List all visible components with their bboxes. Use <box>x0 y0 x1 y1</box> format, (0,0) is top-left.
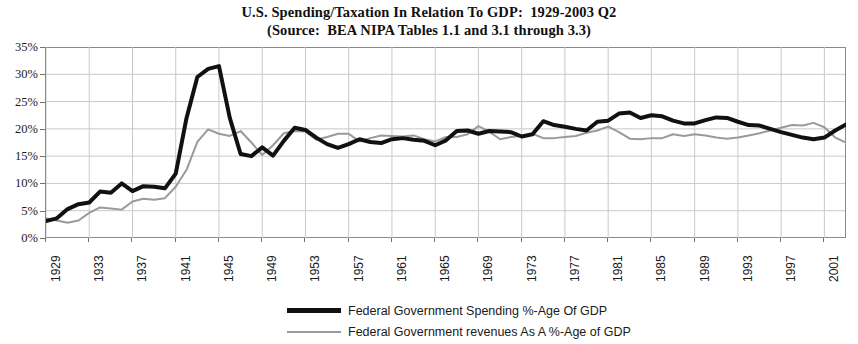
y-axis-tick-mark <box>40 238 45 239</box>
x-axis-tick-label: 1973 <box>526 255 538 282</box>
x-axis-tick-mark <box>434 238 435 242</box>
x-axis-tick-label: 1949 <box>266 255 278 282</box>
x-axis-tick-mark <box>780 238 781 242</box>
plot-area <box>45 47 845 238</box>
x-axis-tick-label: 1945 <box>223 255 235 282</box>
legend-item-revenues: Federal Government revenues As A %-Age o… <box>287 321 707 342</box>
y-axis-tick-label: 25% <box>0 96 38 108</box>
y-axis-tick-label: 15% <box>0 150 38 162</box>
x-axis-tick-label: 1989 <box>699 255 711 282</box>
x-axis-tick-mark <box>607 238 608 242</box>
x-axis-tick-mark <box>564 238 565 242</box>
x-axis-tick-label: 1929 <box>50 255 62 282</box>
y-axis-tick-label: 5% <box>0 205 38 217</box>
y-axis-tick-label: 20% <box>0 123 38 135</box>
x-axis-tick-label: 2001 <box>828 255 840 282</box>
chart-plot-svg <box>46 47 846 238</box>
x-axis-tick-label: 1957 <box>353 255 365 282</box>
x-axis-tick-mark <box>737 238 738 242</box>
y-axis-tick-label: 0% <box>0 232 38 244</box>
x-axis-tick-mark <box>131 238 132 242</box>
x-axis-tick-mark <box>218 238 219 242</box>
legend-swatch-spending-icon <box>287 308 341 313</box>
chart-subtitle: (Source: BEA NIPA Tables 1.1 and 3.1 thr… <box>0 21 858 39</box>
x-axis-tick-mark <box>650 238 651 242</box>
x-axis-tick-label: 1961 <box>396 255 408 282</box>
x-axis-tick-mark <box>391 238 392 242</box>
x-axis-tick-label: 1937 <box>136 255 148 282</box>
x-axis-tick-mark <box>521 238 522 242</box>
chart-legend: Federal Government Spending %-Age Of GDP… <box>287 300 707 342</box>
x-axis-tick-mark <box>477 238 478 242</box>
chart-container: U.S. Spending/Taxation In Relation To GD… <box>0 0 858 344</box>
page-title: U.S. Spending/Taxation In Relation To GD… <box>0 3 858 21</box>
legend-item-spending: Federal Government Spending %-Age Of GDP <box>287 300 707 321</box>
x-axis-tick-label: 1993 <box>742 255 754 282</box>
x-axis-tick-label: 1981 <box>612 255 624 282</box>
x-axis-tick-mark <box>45 238 46 242</box>
y-axis-tick-label: 30% <box>0 68 38 80</box>
legend-swatch-revenues-icon <box>287 331 341 333</box>
x-axis-tick-label: 1997 <box>785 255 797 282</box>
y-axis-tick-label: 35% <box>0 41 38 53</box>
x-axis-tick-label: 1985 <box>655 255 667 282</box>
y-axis-tick-label: 10% <box>0 177 38 189</box>
x-axis-tick-mark <box>694 238 695 242</box>
x-axis-tick-label: 1953 <box>309 255 321 282</box>
x-axis-tick-label: 1965 <box>439 255 451 282</box>
x-axis-tick-label: 1933 <box>93 255 105 282</box>
x-axis-tick-mark <box>304 238 305 242</box>
x-axis-tick-mark <box>175 238 176 242</box>
x-axis-tick-mark <box>348 238 349 242</box>
x-axis-tick-label: 1969 <box>482 255 494 282</box>
chart-title-block: U.S. Spending/Taxation In Relation To GD… <box>0 3 858 39</box>
x-axis-tick-mark <box>88 238 89 242</box>
legend-label-revenues: Federal Government revenues As A %-Age o… <box>348 325 631 339</box>
data-series-layer <box>46 66 846 223</box>
x-axis-tick-mark <box>823 238 824 242</box>
legend-label-spending: Federal Government Spending %-Age Of GDP <box>348 304 607 318</box>
x-axis-tick-mark <box>261 238 262 242</box>
x-axis-tick-label: 1941 <box>180 255 192 282</box>
x-axis-tick-label: 1977 <box>569 255 581 282</box>
